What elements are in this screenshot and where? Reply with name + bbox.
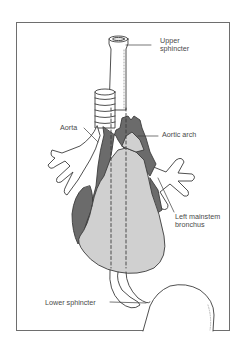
leader-lower-sphincter (110, 302, 146, 303)
trachea (95, 89, 115, 128)
label-aortic-arch: Aortic arch (162, 131, 196, 139)
label-aorta: Aorta (60, 124, 77, 132)
stomach (143, 285, 214, 331)
label-left-mainstem-bronchus: Left mainstem bronchus (175, 213, 220, 230)
label-upper-sphincter: Upper sphincter (160, 37, 189, 54)
esophagus-diagram (0, 0, 245, 349)
label-lower-sphincter: Lower sphincter (45, 299, 96, 307)
